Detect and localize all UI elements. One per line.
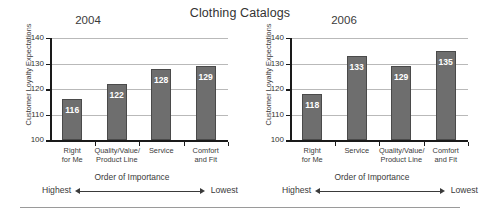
y-tick-mark [286, 64, 290, 65]
category-label-line: and Fit [184, 156, 229, 165]
category-label-line: Product Line [379, 156, 424, 165]
x-tick-mark [228, 142, 229, 146]
order-end-lowest: Lowest [211, 185, 238, 195]
y-tick-mark [286, 140, 290, 141]
order-arrow-row: Highest Lowest [282, 185, 478, 197]
category-label-line: for Me [50, 156, 95, 165]
category-label-line: and Fit [424, 156, 469, 165]
bar-value-label: 135 [437, 57, 455, 67]
category-label: Rightfor Me [50, 147, 95, 164]
y-tick-mark [46, 140, 50, 141]
bar-value-label: 122 [108, 90, 126, 100]
category-label: Service [335, 147, 380, 156]
y-tick-mark [46, 115, 50, 116]
chart-panel-2006: 2006 Customer Loyalty Expectations 10011… [242, 14, 478, 204]
category-label: Rightfor Me [290, 147, 335, 164]
y-tick-mark [46, 89, 50, 90]
category-label-line: Product Line [95, 156, 140, 165]
order-of-importance-band: Order of Importance Highest Lowest [42, 172, 238, 200]
category-label: Service [139, 147, 184, 156]
bar[interactable]: 129 [391, 66, 411, 140]
y-tick-label: 130 [22, 59, 44, 68]
y-tick-label: 130 [262, 59, 284, 68]
bar-value-label: 133 [348, 62, 366, 72]
y-tick-label: 100 [262, 135, 284, 144]
bottom-divider [20, 207, 460, 208]
y-tick-label: 140 [22, 33, 44, 42]
y-tick-label: 110 [262, 110, 284, 119]
category-label-line: Service [139, 147, 184, 156]
plot-area: 100110120130140118133129135 [290, 38, 468, 142]
bar-value-label: 118 [303, 100, 321, 110]
bar[interactable]: 118 [302, 94, 322, 140]
category-label-line: for Me [290, 156, 335, 165]
bar-value-label: 129 [392, 72, 410, 82]
y-tick-label: 120 [22, 84, 44, 93]
category-label: Quality/Value/Product Line [95, 147, 140, 164]
bar[interactable]: 129 [196, 66, 216, 140]
y-tick-mark [286, 89, 290, 90]
order-double-arrow-icon [80, 191, 200, 192]
category-label: Comfortand Fit [424, 147, 469, 164]
y-tick-label: 100 [22, 135, 44, 144]
gridline [52, 38, 228, 39]
y-tick-mark [286, 38, 290, 39]
bar[interactable]: 122 [107, 84, 127, 140]
order-end-lowest: Lowest [451, 185, 478, 195]
panel-year-label: 2006 [226, 14, 462, 26]
order-end-highest: Highest [282, 185, 311, 195]
x-tick-mark [468, 142, 469, 146]
x-tick-mark [335, 142, 336, 146]
category-label-line: Service [335, 147, 380, 156]
chart-panel-2004: 2004 Customer Loyalty Expectations 10011… [2, 14, 238, 204]
bar-value-label: 128 [152, 75, 170, 85]
bar[interactable]: 128 [151, 69, 171, 141]
order-arrow-row: Highest Lowest [42, 185, 238, 197]
bar-value-label: 116 [63, 105, 81, 115]
y-tick-label: 120 [262, 84, 284, 93]
y-tick-label: 140 [262, 33, 284, 42]
y-tick-mark [46, 38, 50, 39]
category-label: Comfortand Fit [184, 147, 229, 164]
bar[interactable]: 116 [62, 99, 82, 140]
bar-value-label: 129 [197, 72, 215, 82]
order-double-arrow-icon [320, 191, 440, 192]
order-caption: Order of Importance [274, 172, 470, 182]
bar[interactable]: 133 [347, 56, 367, 140]
order-end-highest: Highest [42, 185, 71, 195]
y-tick-label: 110 [22, 110, 44, 119]
plot-area: 100110120130140116122128129 [50, 38, 228, 142]
order-caption: Order of Importance [34, 172, 230, 182]
category-label: Quality/Value/Product Line [379, 147, 424, 164]
x-tick-mark [184, 142, 185, 146]
bar[interactable]: 135 [436, 51, 456, 141]
order-of-importance-band: Order of Importance Highest Lowest [282, 172, 478, 200]
y-tick-mark [46, 64, 50, 65]
gridline [292, 38, 468, 39]
y-tick-mark [286, 115, 290, 116]
gridline [52, 64, 228, 65]
